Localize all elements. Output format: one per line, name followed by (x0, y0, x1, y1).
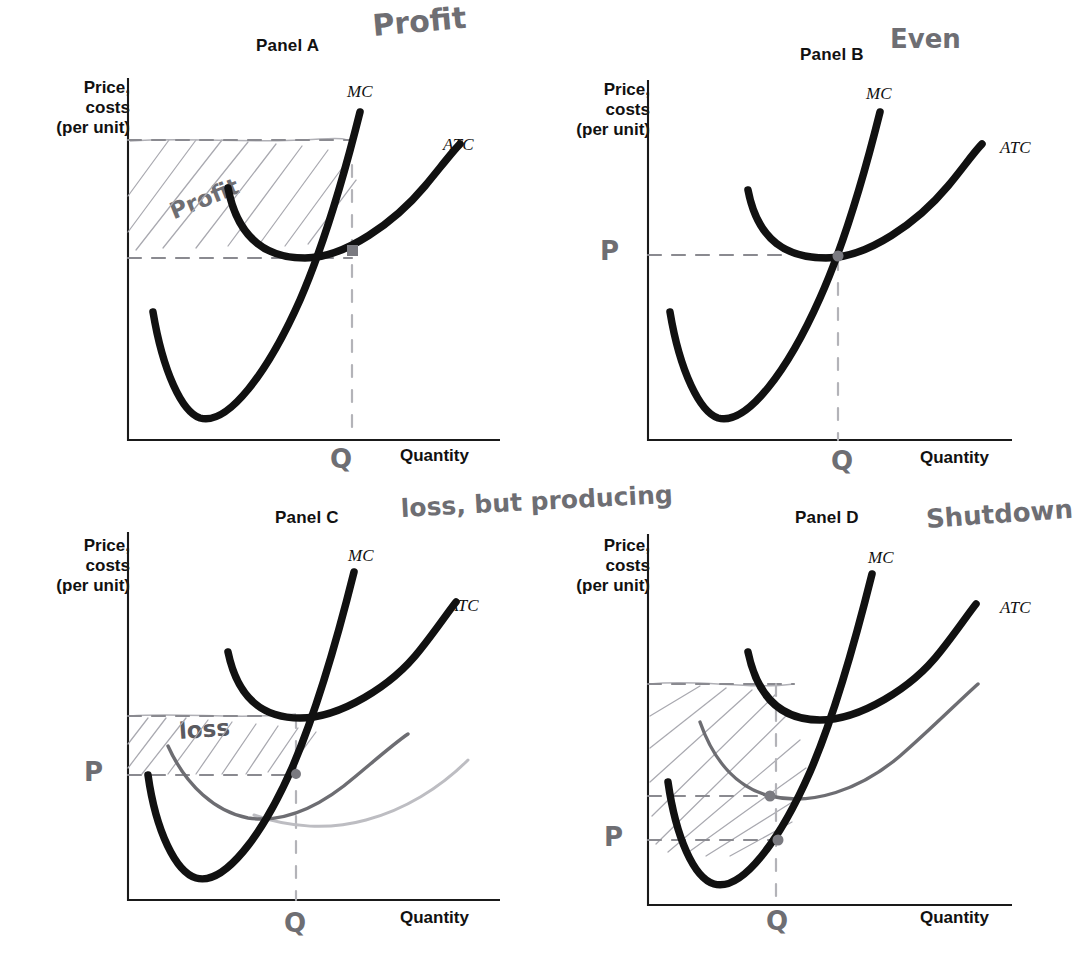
panel-d-mc-curve (668, 574, 872, 885)
panel-d-equilibrium-point (773, 835, 784, 846)
panel-d-avc-point (765, 791, 776, 802)
